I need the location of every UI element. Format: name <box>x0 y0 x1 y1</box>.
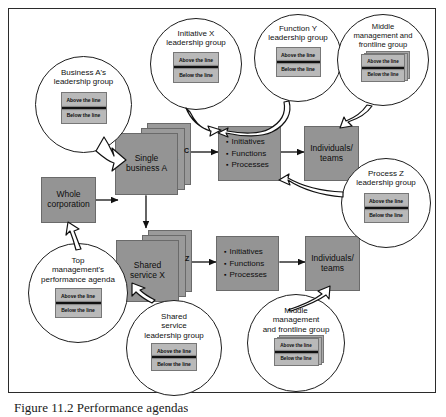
figure-canvas: C B Singlebusiness A Initiatives Functio… <box>0 0 446 417</box>
pointer-top-management-to-whole-corporation <box>66 222 81 250</box>
pointer-process-z-to-ifp-top <box>279 174 343 197</box>
pointer-function-y-to-ifp-top <box>218 101 290 137</box>
pointer-shared-service-leadership-to-shared-service <box>132 283 155 303</box>
figure-caption: Figure 11.2 Performance agendas <box>14 400 188 417</box>
pointer-middle-management-top-to-individuals-top <box>340 105 372 128</box>
pointer-business-a-to-single-business <box>96 137 126 171</box>
pointer-initiative-x-to-ifp-top <box>186 108 221 136</box>
pointer-layer <box>0 0 446 417</box>
pointer-middle-management-bottom-to-individuals-bottom <box>288 286 330 311</box>
